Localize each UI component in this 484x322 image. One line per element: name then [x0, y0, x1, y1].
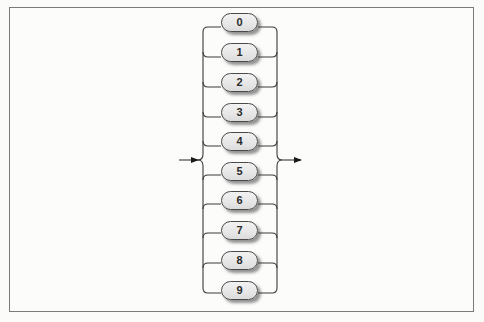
choice-digit-0: 0 [221, 13, 258, 32]
choice-digit-9: 9 [221, 281, 258, 300]
choice-digit-2: 2 [221, 73, 258, 92]
choice-digit-1: 1 [221, 43, 258, 62]
choice-digit-6: 6 [221, 191, 258, 210]
choice-digit-5: 5 [221, 162, 258, 181]
choice-digit-8: 8 [221, 251, 258, 270]
choice-digit-3: 3 [221, 103, 258, 122]
choice-digit-4: 4 [221, 132, 258, 151]
choice-digit-7: 7 [221, 221, 258, 240]
